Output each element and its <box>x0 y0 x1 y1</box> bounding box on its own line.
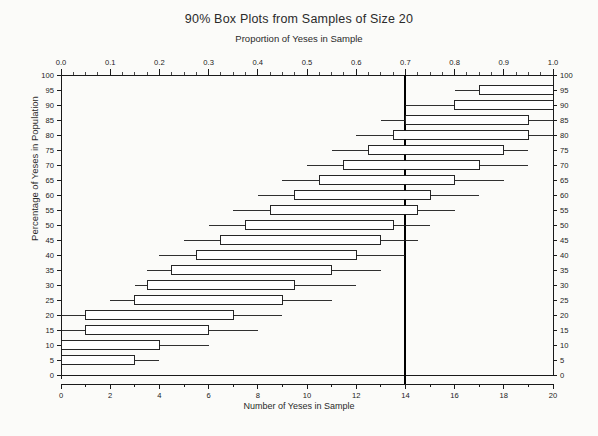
y-tick-label-right: 75 <box>560 146 568 155</box>
y-tick-label-left: 95 <box>46 86 54 95</box>
x-tick-label-bottom: 0 <box>59 391 63 400</box>
box-plot-row <box>455 86 553 94</box>
box-rect <box>393 131 528 139</box>
y-tick-label-left: 50 <box>46 221 54 230</box>
y-tick-label-left: 35 <box>46 266 54 275</box>
box-plot-row <box>405 101 553 109</box>
y-tick-label-right: 80 <box>560 131 568 140</box>
x-tick-label-bottom: 14 <box>401 391 409 400</box>
y-tick-label-right: 25 <box>560 296 568 305</box>
box-rect <box>61 341 159 349</box>
x-tick-label-top: 0.6 <box>351 58 362 67</box>
y-tick-label-right: 40 <box>560 251 568 260</box>
box-rect <box>61 356 135 364</box>
x-tick-label-bottom: 4 <box>157 391 161 400</box>
box-rect <box>221 236 381 244</box>
box-rect <box>135 296 283 304</box>
box-rect <box>86 311 234 319</box>
box-plot-row <box>147 266 381 274</box>
y-tick-label-right: 35 <box>560 266 568 275</box>
y-tick-label-right: 30 <box>560 281 568 290</box>
y-tick-label-right: 100 <box>560 71 573 80</box>
y-tick-label-left: 25 <box>46 296 54 305</box>
box-plot-row <box>282 176 503 184</box>
x-tick-label-bottom: 2 <box>108 391 112 400</box>
y-tick-label-left: 40 <box>46 251 54 260</box>
box-rect <box>344 161 479 169</box>
box-plot-row <box>61 341 209 349</box>
box-rect <box>455 101 553 109</box>
x-tick-label-top: 0.8 <box>449 58 460 67</box>
x-tick-label-top: 0.0 <box>56 58 67 67</box>
y-tick-label-right: 10 <box>560 341 568 350</box>
chart-canvas: 90% Box Plots from Samples of Size 20 Pr… <box>0 0 598 436</box>
y-tick-label-left: 45 <box>46 236 54 245</box>
y-tick-label-left: 30 <box>46 281 54 290</box>
box-rect <box>479 86 553 94</box>
box-plot-row <box>61 326 258 334</box>
box-plot-row <box>258 191 479 199</box>
y-tick-label-left: 55 <box>46 206 54 215</box>
x-tick-label-top: 0.4 <box>253 58 264 67</box>
box-rect <box>270 206 418 214</box>
x-tick-label-top: 0.3 <box>203 58 214 67</box>
y-tick-label-right: 70 <box>560 161 568 170</box>
x-tick-label-top: 0.1 <box>105 58 116 67</box>
box-plot-row <box>356 131 553 139</box>
y-tick-label-left: 15 <box>46 326 54 335</box>
y-tick-label-left: 10 <box>46 341 54 350</box>
x-tick-label-bottom: 20 <box>549 391 557 400</box>
box-rect <box>196 251 356 259</box>
box-rect <box>319 176 454 184</box>
y-tick-label-left: 75 <box>46 146 54 155</box>
box-rect <box>147 281 295 289</box>
y-tick-label-left: 20 <box>46 311 54 320</box>
x-tick-label-bottom: 16 <box>450 391 458 400</box>
box-rect <box>172 266 332 274</box>
y-tick-label-left: 85 <box>46 116 54 125</box>
x-tick-label-bottom: 6 <box>206 391 210 400</box>
x-tick-label-top: 0.9 <box>499 58 510 67</box>
box-plot-row <box>110 296 331 304</box>
y-tick-label-right: 15 <box>560 326 568 335</box>
y-tick-label-left: 5 <box>50 356 54 365</box>
box-plot-row <box>61 356 159 364</box>
box-rect <box>369 146 504 154</box>
x-tick-label-bottom: 12 <box>352 391 360 400</box>
y-tick-label-left: 0 <box>50 371 54 380</box>
x-tick-label-bottom: 8 <box>256 391 260 400</box>
x-tick-label-bottom: 18 <box>500 391 508 400</box>
y-tick-label-left: 90 <box>46 101 54 110</box>
y-tick-label-left: 60 <box>46 191 54 200</box>
x-tick-label-top: 0.2 <box>154 58 165 67</box>
y-tick-label-left: 80 <box>46 131 54 140</box>
x-tick-label-bottom: 10 <box>303 391 311 400</box>
y-tick-label-right: 0 <box>560 371 564 380</box>
y-tick-label-right: 85 <box>560 116 568 125</box>
y-tick-label-left: 100 <box>41 71 54 80</box>
y-tick-label-right: 50 <box>560 221 568 230</box>
box-plot-row <box>135 281 356 289</box>
y-tick-label-left: 70 <box>46 161 54 170</box>
y-tick-label-right: 60 <box>560 191 568 200</box>
box-plot-row <box>159 251 405 259</box>
x-tick-label-top: 0.7 <box>400 58 411 67</box>
box-plot-row <box>209 221 430 229</box>
y-tick-label-right: 45 <box>560 236 568 245</box>
y-tick-label-right: 55 <box>560 206 568 215</box>
x-tick-label-top: 0.5 <box>302 58 313 67</box>
y-tick-label-left: 65 <box>46 176 54 185</box>
box-rect <box>246 221 394 229</box>
box-rect <box>86 326 209 334</box>
x-tick-label-top: 1.0 <box>548 58 559 67</box>
box-plot-svg: 0.00.10.20.30.40.50.60.70.80.91.00246810… <box>0 0 598 436</box>
box-plot-row <box>233 206 454 214</box>
box-plot-row <box>184 236 418 244</box>
box-plot-row <box>381 116 553 124</box>
y-tick-label-right: 90 <box>560 101 568 110</box>
box-plot-row <box>61 311 282 319</box>
box-plot-row <box>332 146 529 154</box>
y-tick-label-right: 5 <box>560 356 564 365</box>
y-tick-label-right: 95 <box>560 86 568 95</box>
box-plot-row <box>307 161 528 169</box>
